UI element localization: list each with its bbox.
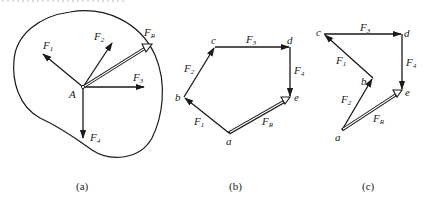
label-c-f3: F3 [359,21,371,35]
panel-c: a b c d e F1 F2 F3 F4 FR (c) [316,21,417,193]
label-point-A: A [68,88,76,100]
label-b-fr: FR [261,115,274,129]
force-f2-arrow [83,43,112,87]
polygon-c-edge-f1 [325,35,373,78]
vertex-b-a: a [226,135,232,147]
label-b-f3: F3 [245,33,257,47]
panel-a: A F1 F2 F3 F4 FR (a) [14,11,163,193]
point-a-marker [81,85,84,88]
polygon-b-edge-f1 [185,98,229,133]
vertex-c-e: e [405,86,410,98]
label-f2: F2 [93,30,105,44]
caption-b: (b) [229,180,242,193]
label-b-f1: F1 [193,115,204,129]
polygon-b-resultant-fr [229,97,290,133]
vertex-c-d: d [404,27,410,39]
label-c-f4: F4 [405,56,417,70]
label-b-f4: F4 [293,64,305,78]
label-f1: F1 [42,39,53,53]
vertex-b-b: b [175,91,181,103]
force-f1-arrow [43,54,83,87]
vertex-c-c: c [316,26,321,38]
label-c-fr: FR [372,112,385,126]
vertex-b-e: e [294,91,299,103]
polygon-c-resultant-fr [342,90,402,130]
vertex-c-b: b [361,75,367,87]
force-polygon-figure: A F1 F2 F3 F4 FR (a) a b c d e F1 F2 F3 … [0,0,425,205]
label-c-f1: F1 [335,54,346,68]
panel-b: a b c d e F1 F2 F3 F4 FR (b) [175,33,305,193]
caption-a: (a) [76,180,89,193]
vertex-b-d: d [287,34,293,46]
label-c-f2: F2 [340,93,352,107]
label-fr: FR [143,26,156,40]
label-f4: F4 [89,131,101,145]
label-b-f2: F2 [183,62,195,76]
vertex-c-a: a [335,131,341,143]
vertex-b-c: c [211,34,216,46]
caption-c: (c) [362,180,375,193]
label-f3: F3 [132,71,144,85]
